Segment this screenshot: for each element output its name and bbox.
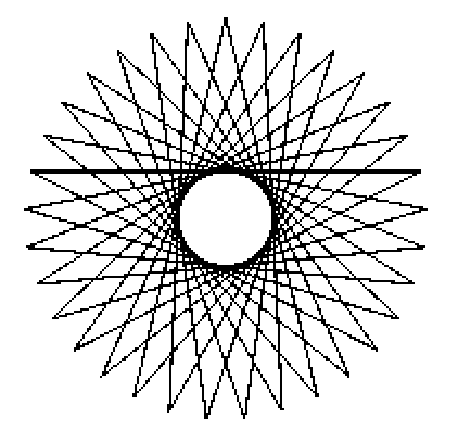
star-polygon-figure [0, 0, 458, 430]
figure-container [0, 0, 458, 430]
